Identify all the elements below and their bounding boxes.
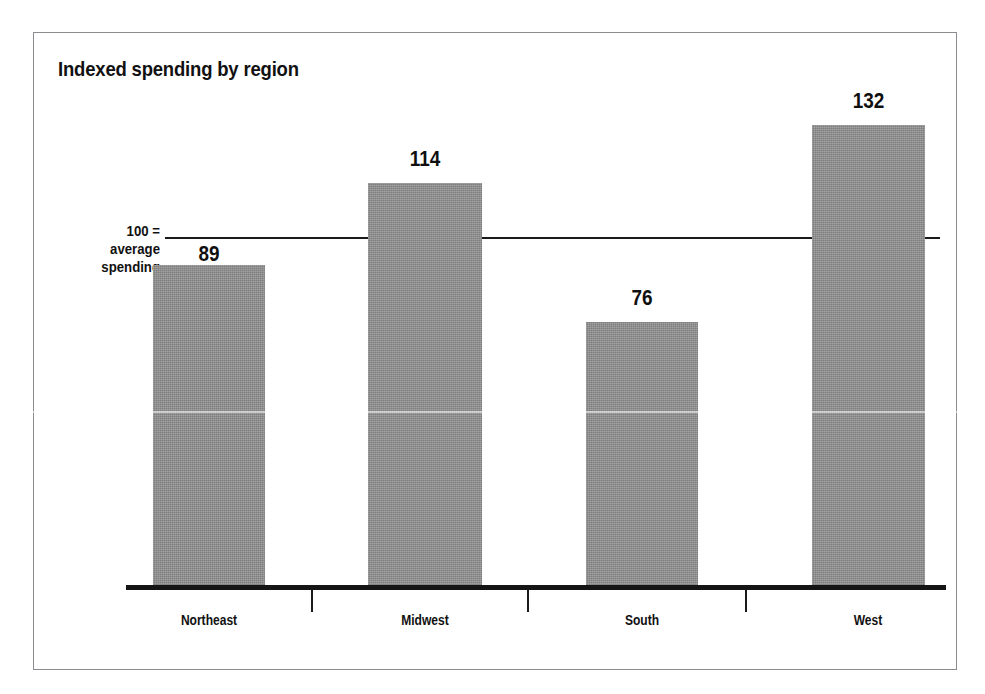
page-title: Indexed spending by region: [58, 57, 299, 81]
chart-page: Indexed spending by region 100 = average…: [0, 0, 985, 694]
chart-frame: [33, 32, 957, 670]
